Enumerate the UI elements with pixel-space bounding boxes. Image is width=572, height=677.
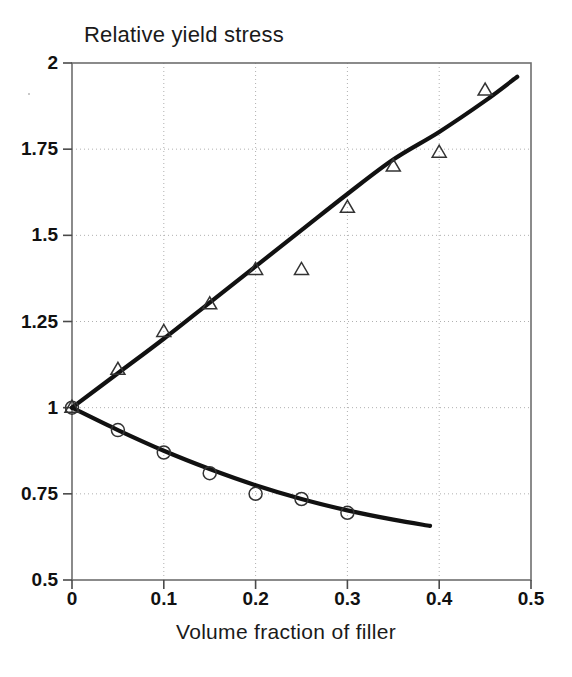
x-tick-label: 0 bbox=[42, 588, 102, 610]
x-tick-label: 0.2 bbox=[226, 588, 286, 610]
y-tick-label: 1.5 bbox=[0, 224, 58, 246]
lower-branch-fit-curve bbox=[72, 408, 430, 526]
upper-branch-fit-curve bbox=[72, 77, 517, 408]
triangle-marker bbox=[340, 200, 354, 212]
y-tick-label: 2 bbox=[0, 52, 58, 74]
x-tick-label: 0.4 bbox=[409, 588, 469, 610]
gridlines bbox=[72, 63, 531, 580]
y-tick-label: 1.75 bbox=[0, 138, 58, 160]
triangle-marker bbox=[478, 83, 492, 95]
fit-curves bbox=[72, 77, 517, 526]
y-tick-label: 1 bbox=[0, 397, 58, 419]
x-axis-title: Volume fraction of filler bbox=[0, 620, 572, 644]
triangle-marker bbox=[295, 262, 309, 274]
plot-canvas bbox=[0, 0, 572, 677]
y-tick-label: 1.25 bbox=[0, 311, 58, 333]
x-tick-label: 0.5 bbox=[501, 588, 561, 610]
y-tick-label: 0.75 bbox=[0, 483, 58, 505]
chart-figure: Relative yield stress 0.50.7511.251.51.7… bbox=[0, 0, 572, 677]
axis-ticks bbox=[63, 63, 531, 589]
x-tick-label: 0.3 bbox=[317, 588, 377, 610]
x-tick-label: 0.1 bbox=[134, 588, 194, 610]
chart-title: Relative yield stress bbox=[84, 22, 284, 48]
scan-speck bbox=[28, 93, 30, 95]
data-markers bbox=[65, 83, 492, 519]
